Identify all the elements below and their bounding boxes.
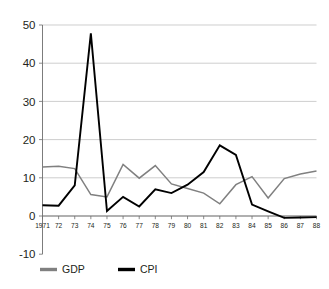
data-series	[43, 33, 317, 218]
x-tick-label: 76	[119, 222, 127, 229]
x-tick-label: 75	[103, 222, 111, 229]
line-chart: 50403020100-10 1971727374757677787980818…	[0, 0, 329, 289]
x-tick-label: 84	[248, 222, 256, 229]
x-tick-label: 86	[281, 222, 289, 229]
y-tick-label: 10	[23, 172, 36, 184]
x-tick-label: 88	[313, 222, 321, 229]
x-tick-label: 82	[216, 222, 224, 229]
x-tick-label: 83	[232, 222, 240, 229]
x-tick-label: 77	[136, 222, 144, 229]
x-axis: 19717273747576777879808182838485868788	[35, 216, 320, 229]
x-tick-label: 81	[200, 222, 208, 229]
y-tick-label: 50	[23, 19, 36, 31]
legend-label-cpi: CPI	[140, 263, 158, 275]
y-tick-label: -10	[19, 248, 36, 260]
x-tick-label: 74	[87, 222, 95, 229]
x-tick-label: 1971	[35, 222, 50, 229]
chart-canvas: 50403020100-10 1971727374757677787980818…	[0, 0, 329, 289]
y-tick-label: 20	[23, 134, 36, 146]
chart-legend: GDPCPI	[40, 263, 158, 275]
x-tick-label: 78	[152, 222, 160, 229]
y-tick-label: 30	[23, 96, 36, 108]
x-tick-label: 72	[55, 222, 63, 229]
x-tick-label: 79	[168, 222, 176, 229]
x-tick-label: 87	[297, 222, 305, 229]
y-tick-label: 0	[29, 210, 35, 222]
legend-label-gdp: GDP	[62, 263, 85, 275]
series-line-gdp	[43, 164, 317, 203]
x-tick-label: 85	[264, 222, 272, 229]
gridlines	[43, 25, 317, 216]
x-tick-label: 73	[71, 222, 79, 229]
x-tick-label: 80	[184, 222, 192, 229]
y-tick-label: 40	[23, 57, 36, 69]
